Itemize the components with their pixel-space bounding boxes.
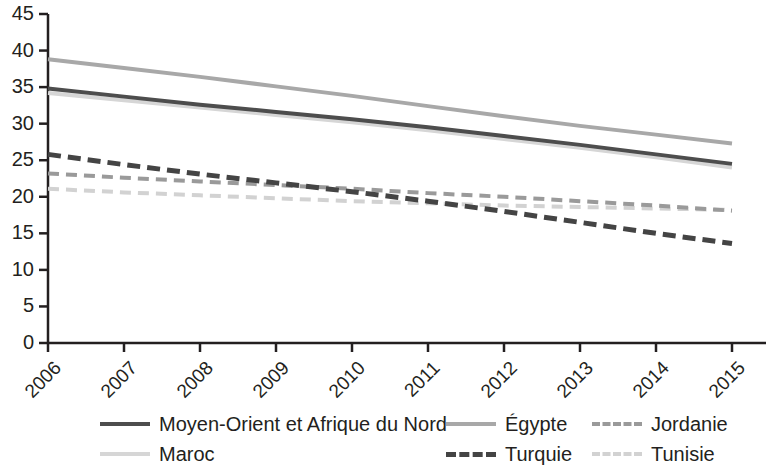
legend-item[interactable]: Égypte (446, 414, 567, 434)
y-tick-label: 20 (0, 186, 34, 206)
y-tick-label: 45 (0, 3, 34, 23)
y-tick-label: 40 (0, 40, 34, 60)
legend-label: Moyen-Orient et Afrique du Nord (159, 414, 447, 434)
y-tick-label: 10 (0, 259, 34, 279)
series-line-turquie (48, 154, 732, 243)
legend-label: Égypte (505, 414, 567, 434)
legend-swatch-icon (446, 422, 496, 426)
y-tick-label: 5 (0, 295, 34, 315)
legend-label: Turquie (505, 444, 572, 464)
y-tick-label: 35 (0, 76, 34, 96)
legend-item[interactable]: Moyen-Orient et Afrique du Nord (100, 414, 447, 434)
legend-item[interactable]: Jordanie (592, 414, 728, 434)
line-chart: 051015202530354045 200620072008200920102… (0, 0, 766, 470)
legend-swatch-icon (446, 452, 496, 457)
legend-label: Jordanie (651, 414, 728, 434)
legend-item[interactable]: Maroc (100, 444, 215, 464)
axis-lines (39, 14, 766, 352)
chart-legend: Moyen-Orient et Afrique du NordMarocÉgyp… (0, 408, 766, 470)
legend-swatch-icon (592, 422, 642, 426)
series-lines (48, 59, 732, 243)
legend-swatch-icon (592, 452, 642, 456)
series-line-jordanie (48, 173, 732, 210)
legend-label: Maroc (159, 444, 215, 464)
legend-item[interactable]: Turquie (446, 444, 572, 464)
y-tick-label: 25 (0, 149, 34, 169)
legend-label: Tunisie (651, 444, 715, 464)
legend-swatch-icon (100, 452, 150, 456)
y-tick-label: 15 (0, 222, 34, 242)
legend-swatch-icon (100, 422, 150, 426)
y-tick-label: 30 (0, 113, 34, 133)
legend-item[interactable]: Tunisie (592, 444, 715, 464)
y-tick-label: 0 (0, 332, 34, 352)
